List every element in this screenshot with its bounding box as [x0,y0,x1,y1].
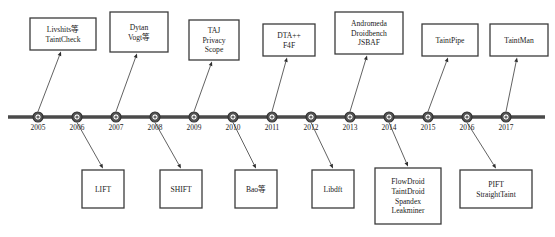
timeline-node-2008[interactable] [150,112,160,122]
event-box-2008[interactable]: SHIFT [160,170,202,208]
year-label-2006: 2006 [70,123,85,132]
event-box-2005[interactable]: Livshits等TaintCheck [30,18,96,50]
event-box-2009[interactable]: TAJPrivacyScope [189,20,239,60]
event-label-2011-line-1: DTA++ [277,31,301,40]
year-label-2017: 2017 [499,123,514,132]
event-label-2013-line-1: Andromeda [351,19,387,28]
event-label-2014-line-4: Leakminer [392,206,425,215]
event-label-2015-line-1: TaintPipe [436,36,466,45]
connector-arrow-2009 [194,62,212,112]
event-box-2016[interactable]: PIFTStraightTaint [460,170,532,208]
event-box-2011[interactable]: DTA++F4F [263,24,315,56]
event-box-2014[interactable]: FlowDroidTaintDroidSpandexLeakminer [375,168,441,224]
event-label-2009-line-2: Privacy [202,36,225,45]
connector-arrow-2017 [506,58,518,112]
timeline-node-2011[interactable] [267,112,277,122]
timeline-node-2014[interactable] [384,112,394,122]
event-label-2005-line-2: TaintCheck [46,35,81,44]
event-box-2006[interactable]: LIFT [82,170,124,208]
year-labels-group: 2005200620072008200920102011201220132014… [31,123,514,132]
event-label-2007-line-1: Dytan [130,23,149,32]
year-label-2013: 2013 [343,123,358,132]
year-label-2005: 2005 [31,123,46,132]
event-label-2016-line-2: StraightTaint [476,190,516,199]
year-label-2012: 2012 [304,123,319,132]
timeline-node-2010[interactable] [228,112,238,122]
event-label-2012-line-1: Libdft [324,185,344,194]
event-label-2017-line-1: TaintMan [504,36,534,45]
event-label-2009-line-3: Scope [205,45,224,54]
event-label-2007-line-2: Vogt等 [128,32,150,42]
event-label-2014-line-3: Spandex [395,197,421,206]
event-box-2010[interactable]: Bao等 [235,170,277,208]
year-label-2007: 2007 [109,123,124,132]
event-label-2014-line-1: FlowDroid [391,177,425,186]
timeline-node-2007[interactable] [111,112,121,122]
event-label-2016-line-1: PIFT [488,180,504,189]
event-box-2007[interactable]: DytanVogt等 [110,12,168,52]
timeline-canvas: 2005200620072008200920102011201220132014… [0,0,555,237]
timeline-node-2017[interactable] [501,112,511,122]
event-label-2006-line-1: LIFT [95,185,111,194]
year-label-2010: 2010 [226,123,241,132]
event-box-2012[interactable]: Libdft [312,170,354,208]
timeline-node-2015[interactable] [423,112,433,122]
event-box-2015[interactable]: TaintPipe [422,24,478,56]
event-label-2013-line-2: Droidbench [351,29,387,38]
year-label-2011: 2011 [265,123,280,132]
timeline-node-2012[interactable] [306,112,316,122]
event-label-2009-line-1: TAJ [208,26,221,35]
connector-arrow-2011 [272,58,288,112]
event-label-2005-line-1: Livshits等 [47,24,79,34]
timeline-node-2013[interactable] [345,112,355,122]
timeline-node-2006[interactable] [72,112,82,122]
connector-arrow-2005 [38,52,61,112]
event-box-2013[interactable]: AndromedaDroidbenchJSBAF [335,12,403,54]
year-label-2009: 2009 [187,123,202,132]
timeline-node-2009[interactable] [189,112,199,122]
event-label-2008-line-1: SHIFT [170,185,191,194]
connector-arrow-2013 [350,56,368,112]
connector-arrow-2007 [116,54,137,112]
timeline-diagram: 2005200620072008200920102011201220132014… [0,0,555,237]
event-box-2017[interactable]: TaintMan [490,24,548,56]
timeline-node-2005[interactable] [33,112,43,122]
timeline-node-2016[interactable] [462,112,472,122]
connector-arrows-group [38,52,518,169]
year-label-2014: 2014 [382,123,397,132]
connector-arrow-2015 [428,58,448,112]
year-label-2016: 2016 [460,123,475,132]
year-label-2015: 2015 [421,123,436,132]
event-label-2013-line-3: JSBAF [358,38,380,47]
year-label-2008: 2008 [148,123,163,132]
event-label-2014-line-2: TaintDroid [391,187,424,196]
event-label-2011-line-2: F4F [283,41,295,50]
event-label-2010-line-1: Bao等 [246,184,266,194]
